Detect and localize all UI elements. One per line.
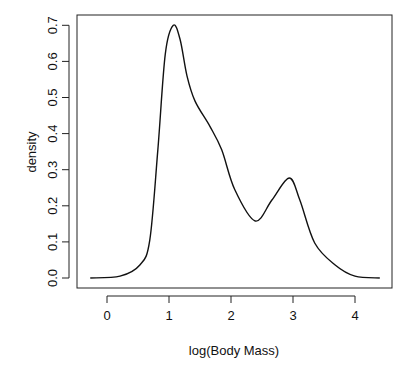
x-axis: 01234 [103,296,358,323]
plot-frame [77,15,392,288]
y-tick-label: 0.1 [45,233,60,251]
density-curve [90,25,380,278]
y-tick-label: 0.7 [45,16,60,34]
x-tick-label: 1 [165,308,172,323]
y-tick-label: 0.3 [45,161,60,179]
y-tick-label: 0.5 [45,88,60,106]
y-axis-label: density [24,131,39,173]
y-axis: 0.00.10.20.30.40.50.60.7 [45,16,69,287]
y-tick-label: 0.4 [45,125,60,143]
x-tick-label: 2 [227,308,234,323]
x-axis-label: log(Body Mass) [189,343,279,358]
x-tick-label: 4 [351,308,358,323]
y-tick-label: 0.2 [45,197,60,215]
y-tick-label: 0.0 [45,269,60,287]
x-tick-label: 3 [289,308,296,323]
density-plot: 0.00.10.20.30.40.50.60.7 01234 log(Body … [0,0,401,367]
y-tick-label: 0.6 [45,52,60,70]
x-tick-label: 0 [103,308,110,323]
